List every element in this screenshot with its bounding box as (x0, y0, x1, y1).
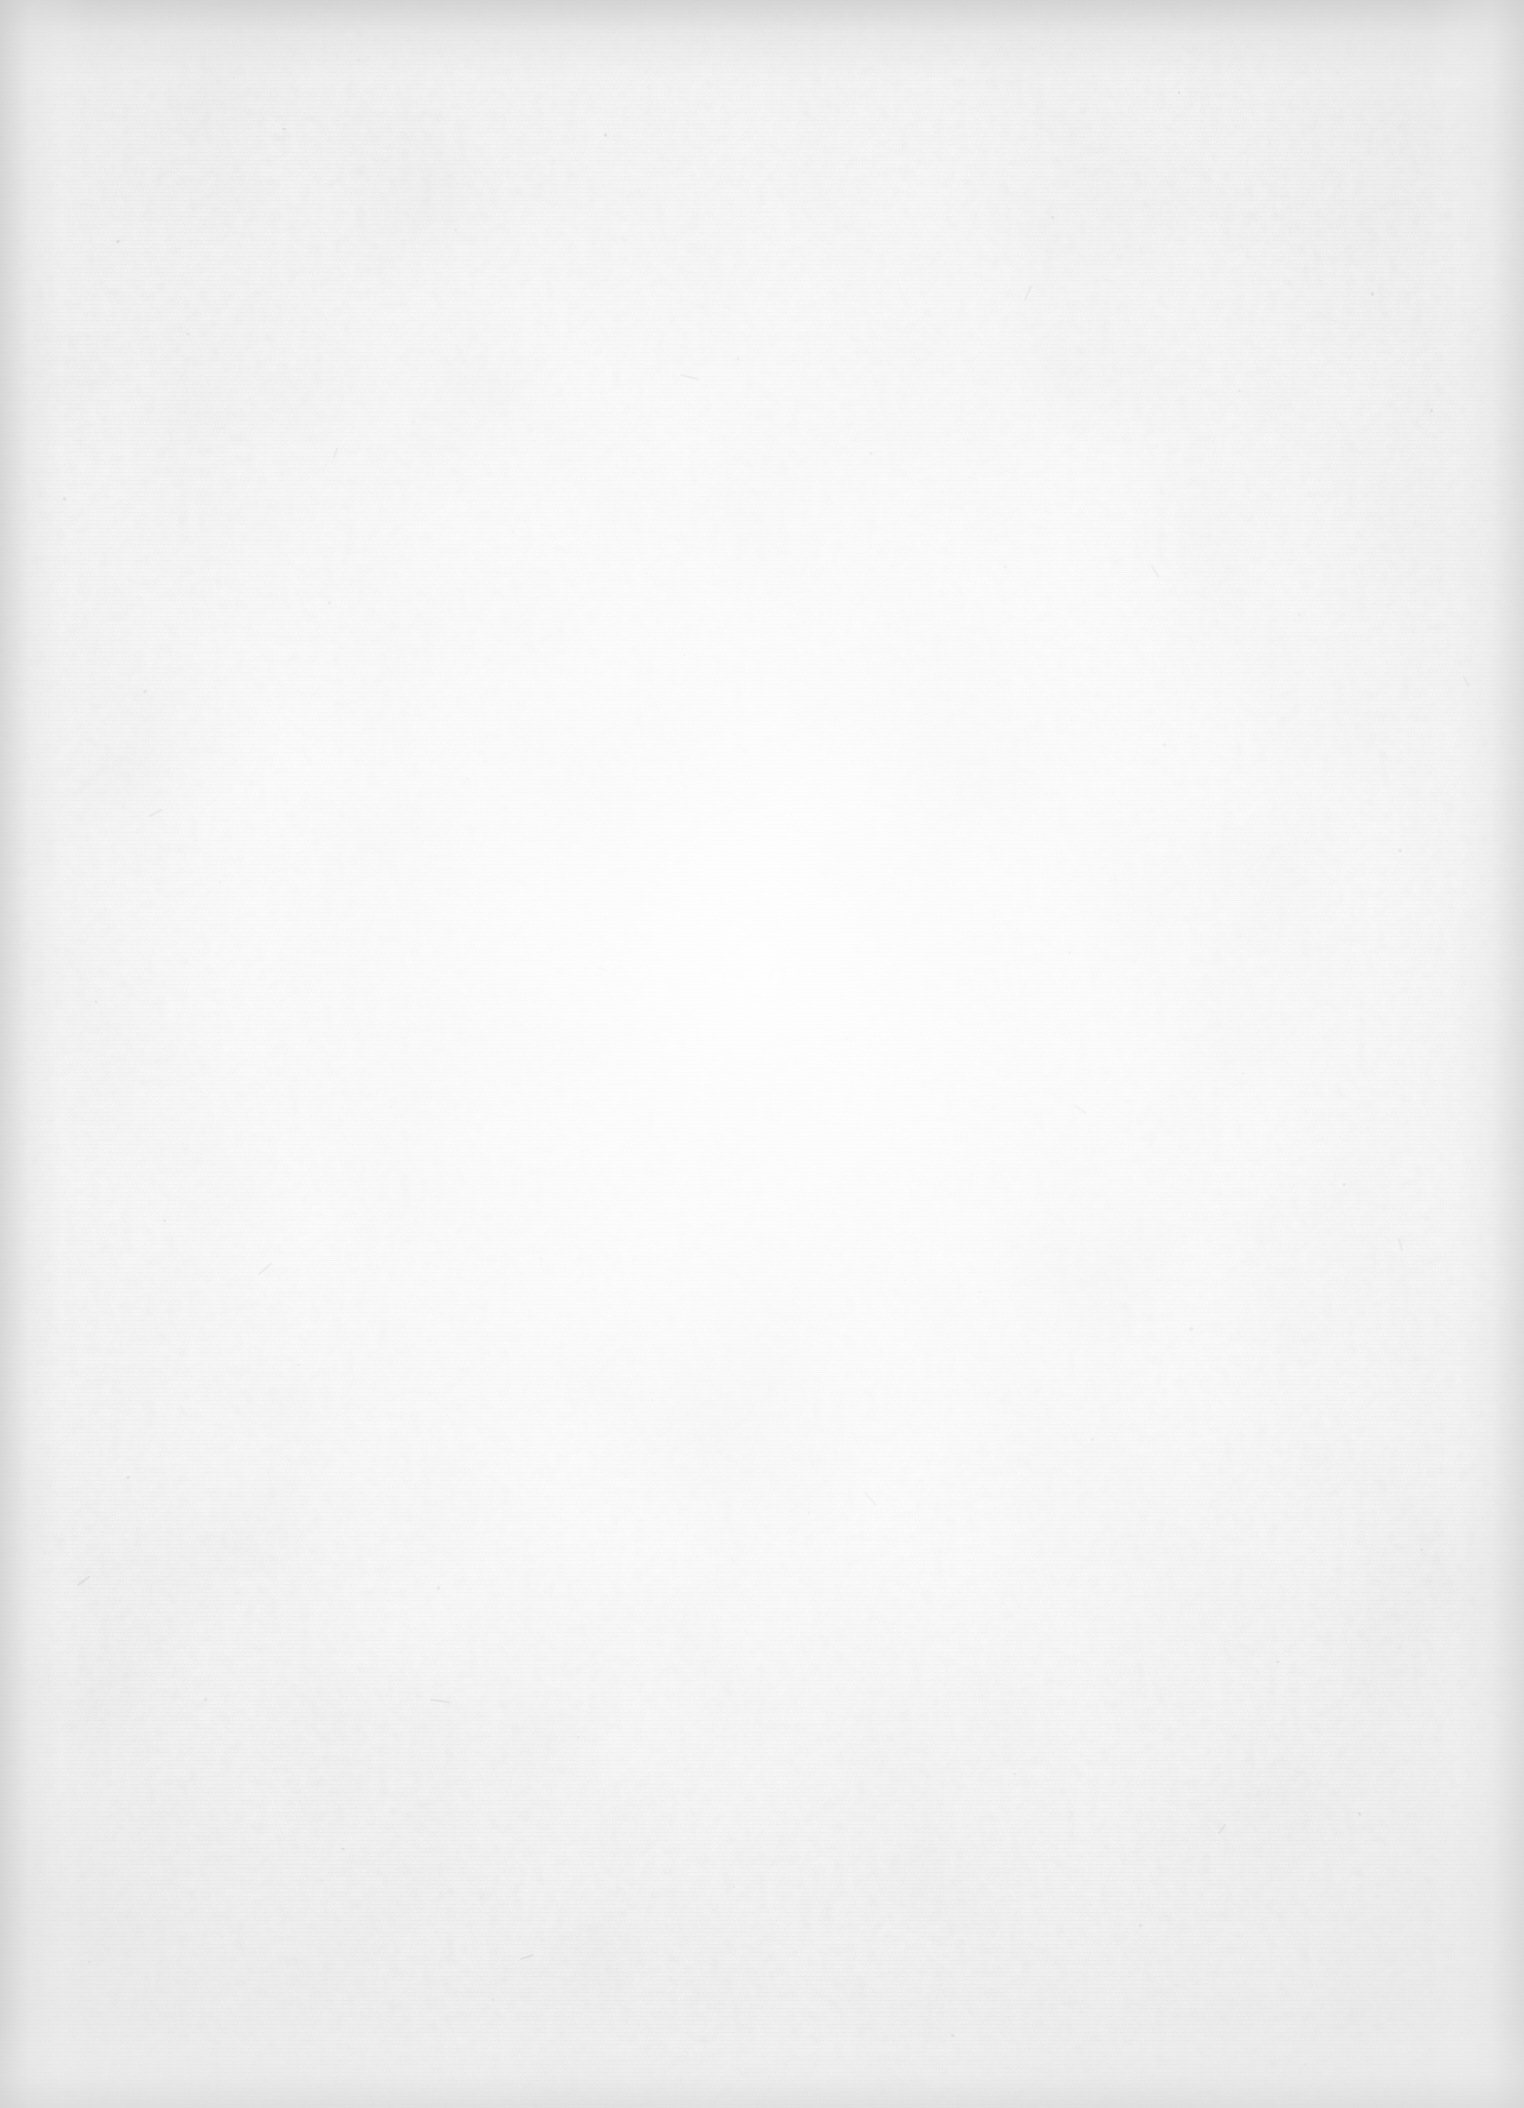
edge-shadow-top (0, 0, 1524, 120)
scanned-page (0, 0, 1524, 2108)
edge-shadow-right (1428, 0, 1524, 2108)
edge-shadow-left (0, 0, 90, 2108)
page-content-area (150, 150, 1374, 1958)
edge-shadow-bottom (0, 2022, 1524, 2108)
